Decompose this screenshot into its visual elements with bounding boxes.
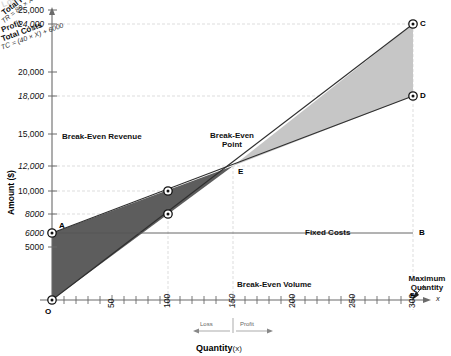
x-axis-letter: x (436, 295, 440, 303)
point-D (409, 92, 417, 100)
x-tick-50: 50 (107, 299, 116, 308)
break-even-revenue-label: Break-Even Revenue (62, 133, 142, 141)
total-costs-line (52, 96, 413, 233)
point-C (409, 20, 417, 28)
x-axis-title: Quantity(x) (196, 338, 242, 354)
y-tick-18000: 18,000 (0, 92, 44, 101)
break-even-point-line2: Point (222, 140, 242, 149)
x-tick-150: 150 (228, 294, 237, 308)
x-tick-200: 200 (288, 294, 297, 308)
point-A (48, 229, 56, 237)
direction-profit-label: Profit (240, 321, 254, 327)
total-revenue-line (52, 24, 413, 300)
chart-canvas (0, 0, 451, 356)
maximum-quantity-line1: Maximum (409, 274, 446, 283)
break-even-volume-label: Break-Even Volume (237, 281, 312, 289)
break-even-point-label: Break-Even Point (186, 131, 278, 149)
point-label-E: E (238, 168, 243, 176)
y-tick-5000: 5000 (0, 243, 44, 252)
gridlines-horizontal (52, 24, 413, 214)
point-tc-100 (164, 187, 172, 195)
x-tick-250: 250 (348, 294, 357, 308)
maximum-quantity-label: Maximum Quantity (404, 274, 450, 292)
x-axis-title-bold: Quantity (196, 343, 233, 353)
y-tick-6000: 6000 (0, 229, 44, 238)
break-even-chart: 25,000 24,000 20,000 18,000 15,000 12,00… (0, 0, 451, 356)
y-axis-title: Amount ($) (6, 170, 16, 215)
point-label-D: D (420, 92, 426, 100)
point-label-A: A (59, 222, 65, 230)
point-label-C: C (420, 20, 426, 28)
point-label-F: F (410, 292, 414, 299)
point-O (48, 296, 56, 304)
point-tr-100 (164, 210, 172, 218)
x-axis-title-var: (x) (233, 344, 242, 353)
direction-loss-label: Loss (200, 321, 213, 327)
point-label-B: B (419, 229, 425, 237)
y-tick-15000: 15,000 (0, 130, 44, 139)
maximum-quantity-line2: Quantity (411, 283, 443, 292)
y-tick-20000: 20,000 (0, 68, 44, 77)
x-axis-arrow (423, 297, 431, 303)
fixed-costs-label: Fixed Costs (305, 229, 350, 237)
point-label-O: O (45, 308, 51, 316)
break-even-point-line1: Break-Even (210, 131, 254, 140)
x-tick-100: 100 (163, 294, 172, 308)
